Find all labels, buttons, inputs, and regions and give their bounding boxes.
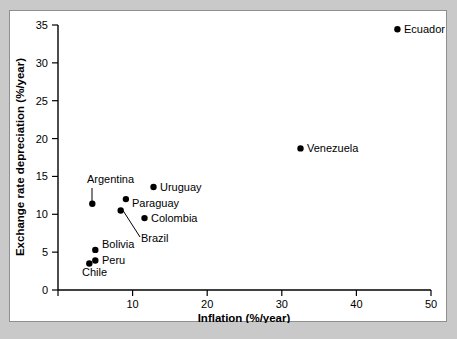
point-label-uruguay: Uruguay bbox=[160, 181, 202, 193]
data-point-paraguay[interactable] bbox=[123, 196, 129, 202]
data-point-argentina[interactable] bbox=[89, 201, 95, 207]
y-tick-label-15: 15 bbox=[36, 170, 48, 182]
leader-line-brazil bbox=[123, 211, 140, 238]
point-label-brazil: Brazil bbox=[141, 232, 169, 244]
y-tick-label-5: 5 bbox=[42, 246, 48, 258]
y-axis-title: Exchange rate depreciation (%/year) bbox=[14, 58, 26, 256]
x-tick-label-50: 50 bbox=[425, 298, 437, 310]
point-label-argentina: Argentina bbox=[87, 173, 135, 185]
point-label-ecuador: Ecuador bbox=[404, 23, 445, 35]
x-axis-title: Inflation (%/year) bbox=[198, 312, 291, 323]
point-label-bolivia: Bolivia bbox=[102, 238, 135, 250]
point-labels: Ecuador Venezuela Uruguay Paraguay Colom… bbox=[82, 23, 445, 278]
data-point-ecuador[interactable] bbox=[394, 26, 400, 32]
data-point-bolivia[interactable] bbox=[92, 247, 98, 253]
x-tick-label-10: 10 bbox=[126, 298, 138, 310]
point-label-venezuela: Venezuela bbox=[307, 142, 359, 154]
scatter-plot: 35 30 25 20 15 10 5 0 10 20 30 40 bbox=[10, 11, 448, 323]
y-tick-label-0: 0 bbox=[42, 284, 48, 296]
point-label-peru: Peru bbox=[102, 254, 125, 266]
data-point-peru[interactable] bbox=[92, 257, 98, 263]
y-tick-label-10: 10 bbox=[36, 208, 48, 220]
x-axis-ticks: 10 20 30 40 50 bbox=[58, 290, 437, 310]
point-label-paraguay: Paraguay bbox=[132, 197, 180, 209]
point-label-chile: Chile bbox=[82, 266, 107, 278]
data-point-colombia[interactable] bbox=[141, 215, 147, 221]
chart-svg: 35 30 25 20 15 10 5 0 10 20 30 40 bbox=[10, 11, 448, 323]
point-label-colombia: Colombia bbox=[151, 212, 198, 224]
y-tick-label-25: 25 bbox=[36, 95, 48, 107]
figure-panel: 35 30 25 20 15 10 5 0 10 20 30 40 bbox=[9, 10, 447, 322]
x-tick-label-20: 20 bbox=[201, 298, 213, 310]
y-tick-label-35: 35 bbox=[36, 19, 48, 31]
data-point-venezuela[interactable] bbox=[297, 145, 303, 151]
x-tick-label-30: 30 bbox=[276, 298, 288, 310]
y-tick-label-30: 30 bbox=[36, 57, 48, 69]
data-point-uruguay[interactable] bbox=[150, 184, 156, 190]
y-tick-label-20: 20 bbox=[36, 133, 48, 145]
x-tick-label-40: 40 bbox=[350, 298, 362, 310]
data-point-brazil[interactable] bbox=[118, 207, 124, 213]
leader-lines bbox=[92, 188, 140, 237]
y-axis-ticks: 35 30 25 20 15 10 5 0 bbox=[36, 19, 58, 296]
